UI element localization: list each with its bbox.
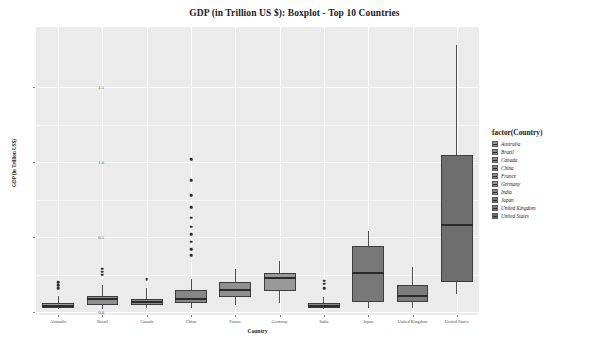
legend-swatch-icon xyxy=(492,173,498,179)
x-tick-mark xyxy=(368,315,369,317)
chart-title: GDP (in Trillion US $): Boxplot - Top 10… xyxy=(0,8,589,18)
legend-swatch-icon xyxy=(492,157,498,163)
legend-item-brazil[interactable]: Brazil xyxy=(492,148,587,155)
legend-item-india[interactable]: India xyxy=(492,188,587,195)
y-tick-mark xyxy=(33,162,35,163)
legend-item-united-kingdom[interactable]: United Kingdom xyxy=(492,204,587,211)
legend-item-list: AustraliaBrazilCanadaChinaFranceGermanyI… xyxy=(492,140,587,219)
whisker-lower xyxy=(456,282,457,294)
legend-item-label: United States xyxy=(501,213,529,219)
legend: factor(Country) AustraliaBrazilCanadaChi… xyxy=(492,128,587,220)
chart-container: GDP (in Trillion US $): Boxplot - Top 10… xyxy=(0,0,589,354)
x-tick-mark xyxy=(58,315,59,317)
x-tick-label: Brazil xyxy=(97,319,108,324)
legend-swatch-icon xyxy=(492,149,498,155)
x-tick-label: Australia xyxy=(50,319,66,324)
legend-swatch-icon xyxy=(492,213,498,219)
x-tick-label: Japan xyxy=(363,319,373,324)
legend-swatch-icon xyxy=(492,189,498,195)
legend-item-germany[interactable]: Germany xyxy=(492,180,587,187)
median-line xyxy=(441,224,473,226)
legend-item-label: Canada xyxy=(501,157,517,163)
x-tick-label: Canada xyxy=(140,319,153,324)
legend-item-label: United Kingdom xyxy=(501,205,535,211)
x-tick-label: Germany xyxy=(271,319,287,324)
legend-item-china[interactable]: China xyxy=(492,164,587,171)
x-tick-mark xyxy=(324,315,325,317)
x-axis-title: Country xyxy=(36,328,479,334)
y-tick-mark xyxy=(33,87,35,88)
x-tick-label: India xyxy=(319,319,328,324)
legend-item-label: Brazil xyxy=(501,149,514,155)
legend-item-label: Australia xyxy=(501,141,520,147)
boxplot-united-states xyxy=(36,27,479,315)
x-tick-mark xyxy=(235,315,236,317)
legend-item-france[interactable]: France xyxy=(492,172,587,179)
x-tick-label: France xyxy=(229,319,241,324)
x-tick-label: United States xyxy=(445,319,469,324)
x-tick-mark xyxy=(102,315,103,317)
legend-swatch-icon xyxy=(492,205,498,211)
legend-item-canada[interactable]: Canada xyxy=(492,156,587,163)
y-tick-mark xyxy=(33,237,35,238)
x-tick-mark xyxy=(413,315,414,317)
y-tick-mark xyxy=(33,312,35,313)
legend-item-label: India xyxy=(501,189,512,195)
legend-item-japan[interactable]: Japan xyxy=(492,196,587,203)
y-axis-title: GDP (in Trillion US$) xyxy=(11,113,17,213)
legend-item-label: Japan xyxy=(501,197,514,203)
y-tick-label: 0.5 xyxy=(78,235,104,240)
legend-swatch-icon xyxy=(492,141,498,147)
y-tick-label: 1.0 xyxy=(78,160,104,165)
legend-item-label: Germany xyxy=(501,181,520,187)
x-tick-mark xyxy=(457,315,458,317)
y-tick-label: 0.0 xyxy=(78,310,104,315)
x-tick-mark xyxy=(280,315,281,317)
legend-item-australia[interactable]: Australia xyxy=(492,140,587,147)
legend-title: factor(Country) xyxy=(492,128,587,137)
legend-item-label: China xyxy=(501,165,514,171)
legend-swatch-icon xyxy=(492,165,498,171)
box-iqr xyxy=(441,155,473,283)
legend-swatch-icon xyxy=(492,181,498,187)
legend-swatch-icon xyxy=(492,197,498,203)
plot-panel xyxy=(36,27,479,315)
y-tick-label: 1.5 xyxy=(78,85,104,90)
whisker-upper xyxy=(456,45,457,155)
x-tick-label: United Kingdom xyxy=(398,319,428,324)
x-tick-mark xyxy=(147,315,148,317)
legend-item-united-states[interactable]: United States xyxy=(492,212,587,219)
x-tick-label: China xyxy=(186,319,197,324)
legend-item-label: France xyxy=(501,173,516,179)
x-tick-mark xyxy=(191,315,192,317)
